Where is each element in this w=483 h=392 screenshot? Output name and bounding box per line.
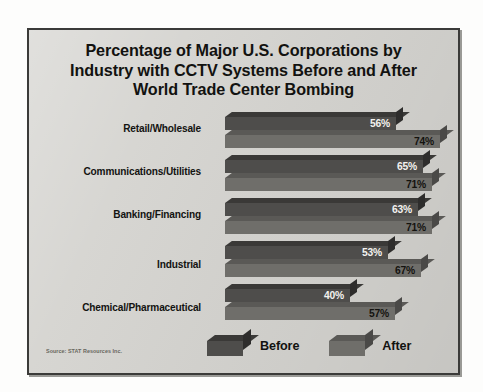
- bar-value-label: 57%: [369, 307, 389, 320]
- legend-item-before: Before: [207, 336, 299, 356]
- category-label: Industrial: [27, 259, 201, 270]
- bar-value-label: 40%: [324, 289, 344, 302]
- bar-front-face: [225, 178, 432, 191]
- chart-title-line-1: Percentage of Major U.S. Corporations by: [37, 41, 450, 61]
- bar-before: 53%: [225, 246, 388, 259]
- bar-side-face: [350, 279, 357, 297]
- bar-side-face: [423, 150, 430, 168]
- bar-group: Industrial 53% 67%: [29, 245, 460, 287]
- slide-frame: Percentage of Major U.S. Corporations by…: [27, 28, 460, 375]
- category-label: Retail/Wholesale: [27, 123, 201, 134]
- legend-label-after: After: [382, 339, 411, 353]
- category-label: Banking/Financing: [27, 209, 201, 220]
- bar-side-face: [432, 211, 439, 229]
- category-label: Communications/Utilities: [27, 166, 201, 177]
- chart-legend: Before After: [207, 330, 411, 362]
- legend-item-after: After: [329, 336, 411, 356]
- bar-group: Chemical/Pharmaceutical 40% 57%: [29, 288, 460, 330]
- legend-label-before: Before: [260, 339, 299, 353]
- bar-front-face: [225, 221, 432, 234]
- legend-swatch-front-face: [207, 341, 243, 356]
- bar-side-face: [418, 193, 425, 211]
- bar-front-face: [225, 135, 440, 148]
- bar-after: 74%: [225, 135, 440, 148]
- bar-side-face: [440, 125, 447, 143]
- bar-front-face: [225, 264, 421, 277]
- bar-group: Retail/Wholesale 56% 74%: [29, 116, 460, 158]
- bar-value-label: 65%: [397, 160, 417, 173]
- bar-group: Communications/Utilities 65% 71%: [29, 159, 460, 201]
- chart-title-line-3: World Trade Center Bombing: [37, 80, 450, 100]
- bar-before: 63%: [225, 203, 418, 216]
- bar-value-label: 67%: [395, 264, 415, 277]
- legend-swatch-side-face: [243, 329, 251, 350]
- bar-after: 71%: [225, 178, 432, 191]
- legend-swatch-side-face: [365, 329, 373, 350]
- bar-front-face: [225, 203, 418, 216]
- category-label: Chemical/Pharmaceutical: [27, 302, 201, 313]
- bar-side-face: [432, 168, 439, 186]
- bar-value-label: 56%: [370, 117, 390, 130]
- chart-title: Percentage of Major U.S. Corporations by…: [37, 41, 450, 100]
- bar-before: 65%: [225, 160, 423, 173]
- legend-swatch-before: [207, 341, 243, 356]
- bar-group: Banking/Financing 63% 71%: [29, 202, 460, 244]
- bar-value-label: 74%: [414, 135, 434, 148]
- bar-before: 40%: [225, 289, 350, 302]
- legend-swatch-front-face: [329, 341, 365, 356]
- bar-side-face: [388, 236, 395, 254]
- chart-title-line-2: Industry with CCTV Systems Before and Af…: [37, 61, 450, 81]
- bar-front-face: [225, 160, 423, 173]
- bar-side-face: [421, 254, 428, 272]
- bar-after: 71%: [225, 221, 432, 234]
- legend-swatch-after: [329, 341, 365, 356]
- bar-value-label: 63%: [392, 203, 412, 216]
- bar-value-label: 71%: [406, 178, 426, 191]
- source-note: Source: STAT Resources Inc.: [46, 348, 122, 354]
- bar-side-face: [395, 297, 402, 315]
- bar-after: 57%: [225, 307, 395, 320]
- bar-value-label: 53%: [362, 246, 382, 259]
- bar-value-label: 71%: [406, 221, 426, 234]
- bar-side-face: [396, 107, 403, 125]
- bar-chart-plot: Retail/Wholesale 56% 74% Communications/…: [29, 116, 460, 326]
- bar-before: 56%: [225, 117, 396, 130]
- bar-after: 67%: [225, 264, 421, 277]
